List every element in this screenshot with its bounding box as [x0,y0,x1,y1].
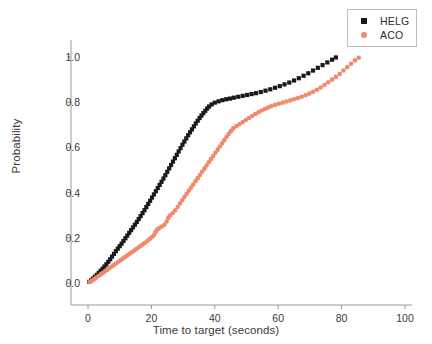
y-tick-label: 0.2 [40,232,80,244]
legend-label-helg: HELG [375,15,409,27]
y-axis-title: Probability [10,86,22,206]
y-tick-label: 0.4 [40,187,80,199]
x-tick-label: 20 [126,312,176,324]
legend-entry-aco: ACO [353,28,409,42]
x-tick-label: 60 [253,312,303,324]
circle-marker-icon [353,32,375,38]
y-tick-label: 0.0 [40,277,80,289]
x-tick-label: 80 [317,312,367,324]
axis-spines [71,40,412,305]
chart-legend: HELG ACO [347,9,417,47]
x-tick-label: 100 [380,312,430,324]
chart-figure: 0.00.20.40.60.81.0 020406080100 Probabil… [0,0,432,344]
square-marker-icon [353,18,375,24]
x-tick-label: 0 [63,312,113,324]
series-helg [87,55,338,284]
legend-label-aco: ACO [375,29,403,41]
series-aco [87,55,361,284]
y-tick-label: 0.8 [40,96,80,108]
x-axis-ticks [88,305,405,309]
legend-entry-helg: HELG [353,14,409,28]
x-tick-label: 40 [190,312,240,324]
x-axis-title: Time to target (seconds) [0,324,432,336]
y-tick-label: 0.6 [40,141,80,153]
y-tick-label: 1.0 [40,51,80,63]
